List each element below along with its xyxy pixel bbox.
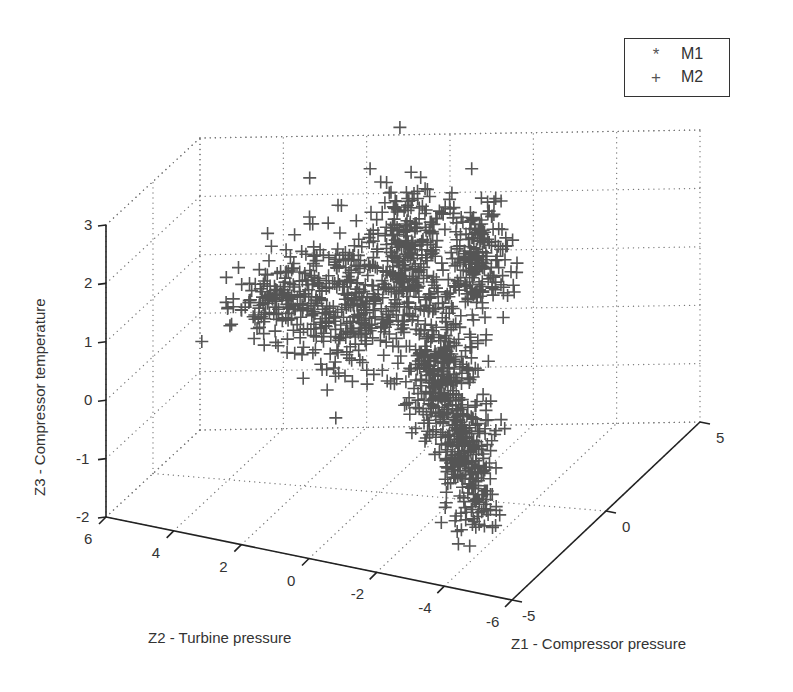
legend-item-m1: * M1 [625,45,729,67]
y-tick-label: 6 [84,531,92,546]
z-tick-label: 0 [84,392,92,407]
y-tick-label: 4 [152,545,160,560]
asterisk-marker-icon: * [649,45,663,65]
x-tick-label: -5 [522,608,535,623]
y-tick-label: 0 [287,573,295,588]
legend-label: M1 [681,45,703,63]
x-tick-label: 0 [622,519,630,534]
legend: * M1 + M2 [624,38,730,97]
x-axis-label: Z1 - Compressor pressure [511,636,686,651]
legend-item-m2: + M2 [625,68,729,90]
y-tick-label: -6 [486,614,499,629]
y-tick-label: 2 [219,559,227,574]
z-tick-label: -2 [76,509,89,524]
y-axis-label: Z2 - Turbine pressure [148,630,291,645]
y-tick-label: -2 [351,586,364,601]
data-points-m2 [195,121,523,553]
z-tick-label: 3 [84,217,92,232]
z-tick-label: 2 [84,275,92,290]
z-tick-label: 1 [84,334,92,349]
y-tick-label: -4 [418,600,431,615]
z-tick-label: -1 [76,451,89,466]
z-axis-label: Z3 - Compressor temperature [32,298,47,496]
legend-label: M2 [681,68,703,86]
scatter-plot-canvas [0,0,793,692]
x-tick-label: 5 [716,430,724,445]
plus-marker-icon: + [649,68,663,88]
